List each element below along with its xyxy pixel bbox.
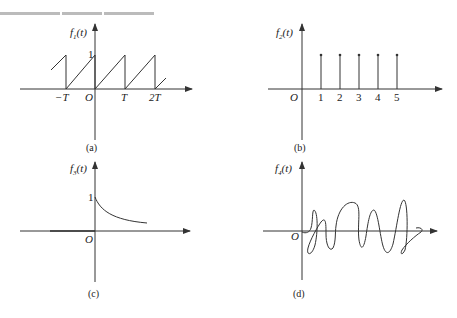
- y-label: f3(t): [70, 162, 87, 177]
- caption-d: (d): [293, 288, 305, 300]
- y-label: f4(t): [275, 162, 292, 177]
- sawtooth-curve: [51, 55, 166, 89]
- decay-curve: [95, 197, 147, 223]
- panel-a: f1(t) 1 O −T T 2T (a): [20, 24, 192, 154]
- x-tick-3: 3: [356, 91, 362, 103]
- panel-c: f3(t) 1 O (c): [20, 162, 190, 300]
- y-label: f2(t): [276, 26, 293, 41]
- x-tick-4: 4: [375, 91, 381, 103]
- random-waveform: [302, 200, 422, 254]
- x-tick-2T: 2T: [149, 91, 162, 103]
- origin-label: O: [85, 233, 93, 245]
- caption-b: (b): [294, 142, 306, 154]
- caption-a: (a): [86, 142, 97, 154]
- x-tick-5: 5: [394, 91, 400, 103]
- panel-d: f4(t) O (d): [263, 162, 437, 300]
- origin-label: O: [291, 230, 299, 242]
- x-tick-T: T: [121, 91, 128, 103]
- y-tick-1: 1: [88, 48, 94, 60]
- origin-label: O: [85, 91, 93, 103]
- signal-figure: f1(t) 1 O −T T 2T (a) f2(t) O 1 2 3 4 5 …: [0, 0, 457, 318]
- origin-label: O: [290, 91, 298, 103]
- caption-c: (c): [88, 288, 99, 300]
- impulse-stems: [320, 54, 399, 89]
- y-label: f1(t): [70, 26, 87, 41]
- panel-b: f2(t) O 1 2 3 4 5 (b): [268, 24, 442, 154]
- x-tick-2: 2: [337, 91, 343, 103]
- x-tick-minus-T: −T: [55, 91, 69, 103]
- y-tick-1: 1: [88, 191, 94, 203]
- x-tick-1: 1: [318, 91, 324, 103]
